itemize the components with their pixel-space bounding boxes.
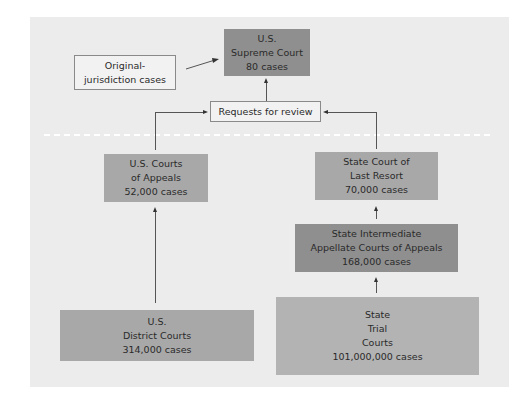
us-appeals-line1: U.S. Courts xyxy=(124,157,187,171)
intermediate-line3: 168,000 cases xyxy=(310,255,442,269)
trial-line2: Trial xyxy=(332,322,422,336)
trial-line4: 101,000,000 cases xyxy=(332,350,422,364)
node-original-jurisdiction: Original- jurisdiction cases xyxy=(74,55,176,90)
trial-line1: State xyxy=(332,308,422,322)
original-line1: Original- xyxy=(84,59,166,73)
node-requests-for-review: Requests for review xyxy=(210,101,321,122)
last-resort-line2: Last Resort xyxy=(343,169,409,183)
node-supreme-court: U.S. Supreme Court 80 cases xyxy=(224,29,310,76)
intermediate-line1: State Intermediate xyxy=(310,227,442,241)
supreme-line3: 80 cases xyxy=(231,60,303,74)
trial-line3: Courts xyxy=(332,336,422,350)
arrowhead-icon xyxy=(323,110,328,114)
supreme-line1: U.S. xyxy=(231,32,303,46)
requests-label: Requests for review xyxy=(218,105,312,119)
arrowhead-icon xyxy=(212,58,219,63)
node-state-trial-courts: State Trial Courts 101,000,000 cases xyxy=(276,297,479,375)
arrowhead-icon xyxy=(374,277,378,282)
intermediate-line2: Appellate Courts of Appeals xyxy=(310,241,442,255)
arrowhead-icon xyxy=(153,207,157,212)
node-state-intermediate-appellate: State Intermediate Appellate Courts of A… xyxy=(295,224,458,272)
arrowhead-icon xyxy=(264,78,268,83)
supreme-line2: Supreme Court xyxy=(231,46,303,60)
us-appeals-line2: of Appeals xyxy=(124,171,187,185)
original-line2: jurisdiction cases xyxy=(84,73,166,87)
node-us-district-courts: U.S. District Courts 314,000 cases xyxy=(60,310,254,361)
node-state-court-last-resort: State Court of Last Resort 70,000 cases xyxy=(315,152,438,200)
last-resort-line3: 70,000 cases xyxy=(343,183,409,197)
district-line1: U.S. xyxy=(122,315,191,329)
last-resort-line1: State Court of xyxy=(343,155,409,169)
arrowhead-icon xyxy=(374,206,378,211)
connector-original-supreme xyxy=(186,60,215,69)
node-us-courts-of-appeals: U.S. Courts of Appeals 52,000 cases xyxy=(104,154,208,202)
district-line2: District Courts xyxy=(122,329,191,343)
arrowhead-icon xyxy=(203,110,208,114)
district-line3: 314,000 cases xyxy=(122,343,191,357)
us-appeals-line3: 52,000 cases xyxy=(124,185,187,199)
